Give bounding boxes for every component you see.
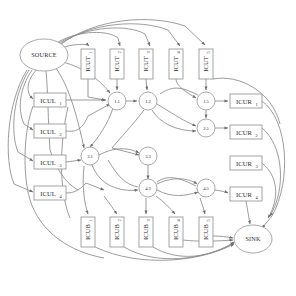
cut-box-icul-3[interactable]: ICUL 3 [34,155,66,169]
diagram-svg: SOURCE SINK 1.1 1.2 1.5 2.5 3.1 [0,0,296,296]
node-label: 3.1 [87,154,93,159]
cut-box-label: ICUL [40,128,55,135]
cut-box-icub-1[interactable]: ICUB 1 [81,217,95,247]
node-label: 1.1 [114,99,120,104]
node-4-3[interactable]: 4.3 [139,179,157,197]
cut-box-icul-4[interactable]: ICUL 4 [34,186,66,200]
node-4-5[interactable]: 4.5 [197,179,215,197]
cut-box-label: ICUT [202,56,209,71]
cut-box-icut-4[interactable]: ICUT 4 [169,49,183,79]
edges-source-to-cut-top [58,20,205,48]
cut-box-label: ICUT [113,56,120,71]
cut-box-icub-3[interactable]: ICUB 3 [139,217,153,247]
cut-box-label: ICUB [113,224,120,240]
cut-box-icul-1[interactable]: ICUL 1 [34,93,66,107]
node-3-1[interactable]: 3.1 [81,147,99,165]
cut-box-icul-2[interactable]: ICUL 2 [34,124,66,138]
cut-box-icub-5[interactable]: ICUB 5 [199,217,213,247]
cut-box-subscript: 2 [255,133,257,138]
cut-box-subscript: 1 [88,219,93,221]
node-1-1[interactable]: 1.1 [108,92,126,110]
cut-box-subscript: 1 [88,51,93,53]
cut-box-label: ICUT [172,56,179,71]
node-label: 3.3 [145,154,151,159]
cut-box-subscript: 1 [59,101,61,106]
cut-box-icur-3[interactable]: ICUR 3 [230,156,262,170]
sink-label: SINK [245,235,261,242]
cut-box-icur-4[interactable]: ICUR 4 [230,187,262,201]
cut-box-label: ICUR [236,129,252,136]
node-1-5[interactable]: 1.5 [197,92,215,110]
cut-box-icub-2[interactable]: ICUB 2 [110,217,124,247]
cut-box-label: ICUT [142,56,149,71]
cut-box-subscript: 1 [255,102,257,107]
node-sink[interactable]: SINK [234,225,272,253]
node-3-3[interactable]: 3.3 [139,147,157,165]
cut-box-icut-1[interactable]: ICUT 1 [81,49,95,79]
cut-box-label: ICUT [84,56,91,71]
node-label: 1.5 [203,99,209,104]
node-source[interactable]: SOURCE [20,39,68,71]
cut-box-subscript: 2 [59,132,61,137]
cut-box-icur-2[interactable]: ICUR 2 [230,125,262,139]
cut-box-label: ICUB [202,224,209,240]
cut-box-label: ICUR [236,191,252,198]
cut-box-subscript: 2 [117,51,122,53]
node-label: 4.3 [145,186,151,191]
cut-box-icut-3[interactable]: ICUT 3 [139,49,153,79]
cut-box-subscript: 2 [117,219,122,221]
node-1-2[interactable]: 1.2 [139,92,157,110]
source-label: SOURCE [31,51,57,58]
cut-box-label: ICUR [236,160,252,167]
cut-box-label: ICUB [172,224,179,240]
cut-box-label: ICUL [40,159,55,166]
cut-box-label: ICUB [84,224,91,240]
node-label: 2.5 [203,126,209,131]
node-label: 1.2 [145,99,151,104]
cut-box-label: ICUL [40,97,55,104]
cut-box-icut-5[interactable]: ICUT 5 [199,49,213,79]
cut-box-label: ICUR [236,98,252,105]
cut-box-icur-1[interactable]: ICUR 1 [230,94,262,108]
diagram-canvas: SOURCE SINK 1.1 1.2 1.5 2.5 3.1 [0,0,296,296]
cut-box-icut-2[interactable]: ICUT 2 [110,49,124,79]
cut-box-icub-4[interactable]: ICUB 4 [169,217,183,247]
cut-box-label: ICUB [142,224,149,240]
node-label: 4.5 [203,186,209,191]
node-2-5[interactable]: 2.5 [197,119,215,137]
cut-box-label: ICUL [40,190,55,197]
